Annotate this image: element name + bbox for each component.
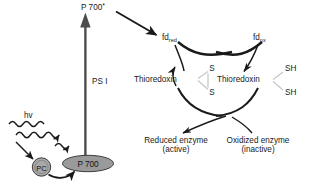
sulfur-top-label: S <box>209 64 214 73</box>
oxidized-enzyme-label: Oxidized enzyme (inactive) <box>227 136 290 155</box>
reduced-enzyme-name: Reduced enzyme <box>144 136 208 145</box>
thiol-top-label: SH <box>285 64 296 73</box>
sulfur-bottom-label: S <box>209 88 214 97</box>
fd-red-label: fdred <box>162 33 177 42</box>
hv-label: hv <box>24 111 33 120</box>
thioredoxin-reduced-label: Thioredoxin <box>217 75 260 84</box>
p700-to-ferredoxin-arrow <box>116 12 157 36</box>
reduced-enzyme-state: (active) <box>144 145 208 154</box>
p700-node <box>63 155 114 171</box>
ps1-label: PS I <box>92 77 107 86</box>
ps1-excitation-arrow <box>80 13 90 163</box>
photosystem-i-thioredoxin-diagram: P 700* PS I P 700 PC hv fdred fdox Thior… <box>0 0 315 183</box>
pc-to-p700-arrow <box>49 172 75 178</box>
reduced-enzyme-label: Reduced enzyme (active) <box>144 136 208 155</box>
diagram-canvas <box>0 0 315 183</box>
thioredoxin-oxidized-label: Thioredoxin <box>134 75 177 84</box>
pc-node <box>32 158 50 176</box>
fd-ox-label: fdox <box>253 33 266 42</box>
electron-input-arrow <box>16 142 33 159</box>
oxidized-enzyme-state: (inactive) <box>227 145 290 154</box>
oxidized-enzyme-name: Oxidized enzyme <box>227 136 290 145</box>
p700-excited-label: P 700* <box>81 3 105 12</box>
ferredoxin-thioredoxin-cycle-upper <box>175 42 262 72</box>
thiol-bottom-label: SH <box>285 88 296 97</box>
